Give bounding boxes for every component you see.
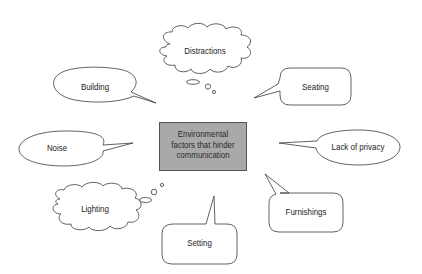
- lack-of-privacy-label: Lack of privacy: [319, 142, 396, 153]
- furnishings-bubble-shape: [265, 174, 343, 232]
- distractions-label: Distractions: [173, 46, 237, 57]
- distractions-cloud-shape: [160, 23, 251, 93]
- noise-label: Noise: [28, 143, 87, 154]
- center-topic-label: Environmental factors that hinder commun…: [163, 129, 244, 161]
- furnishings-label: Furnishings: [272, 207, 340, 218]
- building-label: Building: [63, 82, 127, 93]
- lighting-label: Lighting: [67, 204, 122, 215]
- seating-label: Seating: [283, 82, 348, 93]
- setting-bubble-shape: [162, 196, 237, 264]
- setting-label: Setting: [165, 238, 234, 249]
- center-line-3: communication: [163, 150, 244, 161]
- center-line-1: Environmental: [163, 129, 244, 140]
- center-line-2: factors that hinder: [163, 140, 244, 151]
